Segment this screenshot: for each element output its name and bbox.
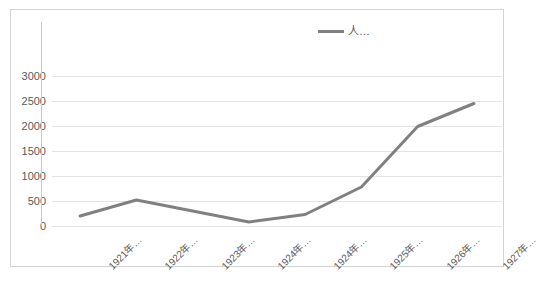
y-tick-2500: 2500 [22,96,46,107]
x-tick-1: 1922年… [163,234,201,272]
x-tick-7: 1927年… [500,234,538,272]
plot-area [52,76,502,226]
x-tick-3: 1924年… [275,234,313,272]
x-tick-6: 1926年… [444,234,482,272]
series-chart-svg [52,76,502,227]
x-tick-0: 1921年… [106,234,144,272]
y-tick-1500: 1500 [22,146,46,157]
chart-legend: 人… [318,24,370,38]
y-axis-tick-labels: 0 500 1000 1500 2000 2500 3000 [0,0,46,282]
y-axis-line [41,22,42,226]
y-tick-3000: 3000 [22,71,46,82]
y-tick-2000: 2000 [22,121,46,132]
x-axis-tick-labels: 1921年… 1922年… 1923年… 1924年… 1924年… 1925年… [52,228,502,276]
series-line-ren [80,104,474,223]
x-tick-5: 1925年… [388,234,426,272]
y-tick-500: 500 [28,196,46,207]
legend-series-label: 人… [348,25,370,37]
x-tick-4: 1924年… [331,234,369,272]
legend-line-swatch [318,30,344,33]
y-tick-1000: 1000 [22,171,46,182]
x-tick-2: 1923年… [219,234,257,272]
